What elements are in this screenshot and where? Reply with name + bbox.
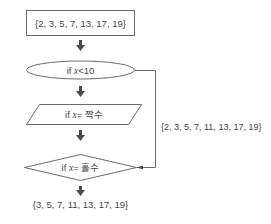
arrow-down-icon [76, 86, 85, 97]
side-connector [135, 71, 156, 170]
condition-parallelogram: if x= 짝수 [27, 105, 142, 125]
side-set-text: {2, 3, 5, 7, 11, 13, 17, 19} [161, 122, 261, 132]
arrow-down-icon [76, 186, 85, 196]
condition1-text: if x<10 [67, 65, 95, 76]
arrow-left-icon [137, 166, 143, 170]
condition2-text: if x= 짝수 [65, 109, 103, 120]
result-set-text: {3, 5, 7, 11, 13, 17, 19} [33, 199, 128, 210]
arrow-down-icon [76, 130, 85, 141]
connector-line [135, 71, 156, 168]
start-set-text: {2, 3, 5, 7, 13, 17, 19} [35, 18, 126, 29]
condition-diamond: if x= 홀수 [25, 155, 137, 181]
start-box: {2, 3, 5, 7, 13, 17, 19} [27, 11, 135, 36]
flowchart: {2, 3, 5, 7, 13, 17, 19} if x<10 if x= 짝… [0, 0, 271, 224]
condition-ellipse: if x<10 [27, 61, 135, 79]
condition3-text: if x= 홀수 [62, 162, 100, 173]
arrow-down-icon [76, 40, 85, 51]
